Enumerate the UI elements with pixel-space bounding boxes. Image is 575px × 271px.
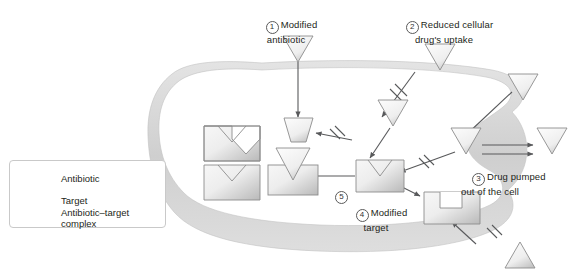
legend-label-target: Target <box>61 195 87 206</box>
badge-1: 1 <box>266 21 279 34</box>
badge-5: 5 <box>335 191 348 204</box>
block-mark-modified-antibiotic <box>330 126 345 139</box>
badge-4: 4 <box>356 209 369 222</box>
legend-label-complex: Antibiotic–target complex <box>61 207 129 229</box>
free-target-lower <box>204 165 260 200</box>
label-mechanism-2: 2Reduced cellular drug's uptake <box>384 8 504 56</box>
modified-antibiotic-trapezoid <box>284 118 313 142</box>
block-mark-target <box>419 155 434 168</box>
arrow-to-target-left <box>370 128 390 158</box>
label-mechanism-2-text: Reduced cellular drug's uptake <box>415 19 493 45</box>
badge-2: 2 <box>406 21 419 34</box>
antibiotic-triangle-bottom-blocked <box>505 242 535 268</box>
arrow-blocked-modified-antibiotic <box>316 133 352 140</box>
antibiotic-triangle-inside-upper <box>378 100 408 126</box>
label-mechanism-4-text: Modified target <box>364 207 408 233</box>
legend-label-antibiotic: Antibiotic <box>61 173 100 184</box>
arrow-blocked-to-target <box>400 152 455 172</box>
free-target-upper <box>204 126 260 161</box>
antibiotic-triangle-expelled <box>537 128 567 154</box>
badge-3: 3 <box>472 173 485 186</box>
label-mechanism-3: 3Drug pumped out of the cell <box>461 160 575 208</box>
label-mechanism-5: 5 <box>324 178 350 215</box>
complex-left <box>268 148 318 195</box>
figure-canvas: 1Modified antibiotic 2Reduced cellular d… <box>0 0 575 271</box>
label-mechanism-1: 1Modified antibiotic <box>246 8 326 56</box>
